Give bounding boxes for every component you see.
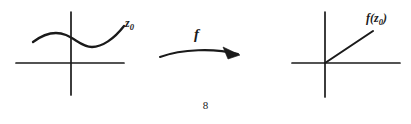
label-fz0-suffix: ) [383,11,387,25]
label-map-f: f [194,27,199,42]
label-f-of-z-zero: f(z0) [366,12,387,26]
source-curve [33,26,124,47]
map-arrow [160,47,240,59]
page-number: 8 [0,99,411,111]
label-fz0-prefix: f(z [366,11,379,25]
image-ray [325,31,373,63]
left-diagram-source-plane [16,12,124,95]
label-z-zero: z0 [125,17,134,31]
label-z-zero-subscript: 0 [130,22,134,32]
figure-page: z0 f f(z0) 8 [0,0,411,124]
